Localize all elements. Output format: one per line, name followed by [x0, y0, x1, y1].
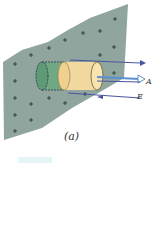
vector-e-label: E: [136, 92, 143, 101]
figure-caption: (a): [64, 130, 79, 143]
bottom-strip: [18, 157, 52, 163]
vector-a-label: A: [145, 77, 152, 86]
